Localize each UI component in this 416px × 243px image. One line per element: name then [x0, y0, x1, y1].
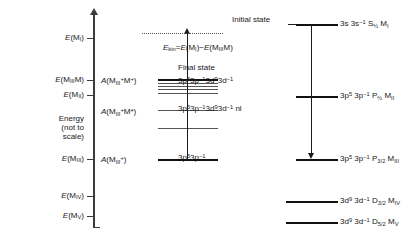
- axis-label-m-iii: E(MIII): [0, 155, 84, 164]
- amplitude-label-miii-m-plus: A(MIII+M+): [101, 76, 137, 86]
- axis-tick-m-iii: [87, 159, 93, 160]
- energy-axis-line: [93, 14, 95, 228]
- axis-label-m-v: E(MV): [0, 212, 84, 221]
- right-level-m-v: [286, 222, 338, 224]
- right-transition-line: [311, 25, 312, 154]
- right-level-m-iii: [296, 159, 338, 161]
- shakeup-configuration: 3p53p−13d93d−1 nl: [178, 104, 242, 114]
- energy-level-diagram: E(MI) E(MIIIM) E(MII) E(MIII) E(MIV) E(M…: [0, 0, 416, 243]
- axis-label-m-ii: E(MII): [0, 91, 84, 100]
- axis-tick-m-v: [87, 216, 93, 217]
- right-level-m-i: [296, 24, 338, 26]
- right-label-m-ii: 3p5 3p−1 P½ MII: [340, 91, 394, 101]
- ekin-equation: Ekin=E(MI)−E(MIIIM): [163, 44, 233, 53]
- final-state-label: Final state: [178, 64, 215, 73]
- right-transition-arrowhead: [308, 153, 314, 159]
- axis-label-m-iii-m: E(MIIIM): [0, 76, 84, 85]
- amplitude-label-miii-m-star: A(MIII+M*): [101, 107, 136, 117]
- initial-state-label: Initial state: [232, 16, 270, 25]
- energy-axis-arrowhead: [90, 8, 98, 15]
- amplitude-label-miii-plus: A(MIII+): [101, 155, 127, 165]
- right-label-m-i: 3s 3s−1 S½ MI: [340, 19, 389, 29]
- axis-label-m-iv: E(MIV): [0, 192, 84, 201]
- axis-tick-m-i: [87, 38, 93, 39]
- right-level-m-ii: [296, 96, 338, 98]
- right-level-m-iv: [286, 201, 338, 203]
- right-label-m-v: 3d9 3d−1 D5/2 MV: [340, 217, 399, 227]
- continuum-dotted-line: [142, 33, 223, 34]
- axis-caption-line-1: Energy: [59, 114, 84, 123]
- axis-label-m-i: E(MI): [0, 34, 84, 43]
- right-label-m-iv: 3d9 3d−1 D3/2 MIV: [340, 196, 400, 206]
- axis-tick-m-iv: [87, 196, 93, 197]
- axis-tick-m-iii-m: [87, 80, 93, 81]
- axis-caption-line-2: (not to: [61, 123, 84, 132]
- axis-tick-m-ii: [87, 95, 93, 96]
- energy-axis-foot: [93, 227, 100, 229]
- axis-caption: Energy (not to scale): [0, 115, 84, 142]
- core-hole-configuration: 3p53p−1: [178, 153, 206, 163]
- right-label-m-iii: 3p5 3p−1 P3/2 MIII: [340, 154, 399, 164]
- axis-caption-line-3: scale): [63, 132, 84, 141]
- final-state-configuration: 3p53p−13d93d−1: [178, 76, 233, 86]
